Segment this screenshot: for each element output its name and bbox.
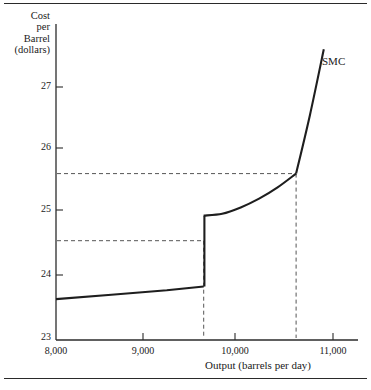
x-tick-label-8000: 8,000 — [31, 346, 81, 357]
y-axis-title-line-1: Cost — [6, 10, 50, 21]
y-tick-label-23: 23 — [29, 332, 51, 343]
y-tick-label-24: 24 — [29, 269, 51, 280]
x-tick-label-11000: 11,000 — [308, 346, 358, 357]
y-axis-title-line-3: Barrel — [6, 33, 50, 44]
smc-series-label: SMC — [322, 56, 345, 68]
y-tick-label-25: 25 — [29, 204, 51, 215]
smc-lower-branch — [56, 287, 204, 300]
y-axis-title-line-2: per — [6, 21, 50, 32]
x-tick-label-9000: 9,000 — [118, 346, 168, 357]
x-axis-title: Output (barrels per day) — [205, 360, 311, 372]
chart-plot-area — [0, 0, 371, 390]
y-tick-label-26: 26 — [29, 142, 51, 153]
y-axis-title-line-4: (dollars) — [6, 44, 50, 55]
y-axis-ticks — [56, 87, 63, 275]
x-tick-label-10000: 10,000 — [210, 346, 260, 357]
smc-upper-branch — [204, 174, 296, 216]
y-tick-label-27: 27 — [29, 81, 51, 92]
y-axis-title: Cost per Barrel (dollars) — [6, 10, 50, 55]
smc-steep-branch — [296, 49, 324, 173]
x-axis-ticks — [143, 333, 333, 340]
smc-curve — [56, 49, 324, 299]
figure-container: Cost per Barrel (dollars) 27 26 25 24 23… — [0, 0, 371, 390]
